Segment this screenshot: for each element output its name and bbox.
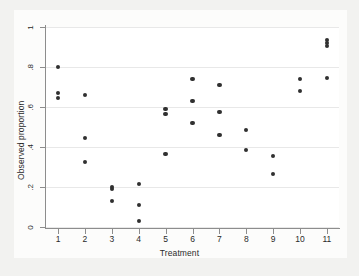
data-point: [137, 182, 141, 186]
y-axis-tick-label: .2: [26, 180, 35, 196]
data-point: [190, 77, 194, 81]
data-point: [190, 121, 194, 125]
data-point: [217, 133, 221, 137]
x-axis-tick-label: 6: [183, 234, 203, 244]
data-point: [244, 148, 248, 152]
data-point: [83, 136, 87, 140]
data-point: [298, 77, 302, 81]
y-axis-tick-label: 0: [26, 220, 35, 236]
y-axis-title: Observed proportion: [16, 101, 26, 180]
x-axis-title: Treatment: [0, 248, 359, 258]
data-point: [163, 152, 167, 156]
gridline: [46, 27, 339, 28]
x-axis-tick-label: 5: [156, 234, 176, 244]
gridline: [46, 187, 339, 188]
data-point: [83, 160, 87, 164]
data-point: [110, 199, 114, 203]
x-axis-tick-label: 4: [129, 234, 149, 244]
data-point: [217, 83, 221, 87]
y-axis-line: [45, 25, 46, 229]
y-axis-tick: [40, 107, 45, 108]
x-axis-tick-label: 9: [263, 234, 283, 244]
data-point: [298, 89, 302, 93]
data-point: [110, 187, 114, 191]
data-point: [163, 112, 167, 116]
scatter-plot-figure: 0.2.4.6.81 1234567891011 Observed propor…: [0, 0, 359, 276]
data-point: [56, 96, 60, 100]
y-axis-tick-label: 1: [26, 20, 35, 36]
y-axis-tick-label: .6: [26, 100, 35, 116]
data-point: [56, 65, 60, 69]
y-axis-tick: [40, 67, 45, 68]
x-axis-tick-label: 2: [75, 234, 95, 244]
data-point: [271, 172, 275, 176]
data-point: [325, 76, 329, 80]
y-axis-tick-label: .8: [26, 60, 35, 76]
y-axis-tick: [40, 147, 45, 148]
x-axis-tick-label: 3: [102, 234, 122, 244]
data-point: [217, 110, 221, 114]
data-point: [163, 107, 167, 111]
x-axis-tick-label: 8: [236, 234, 256, 244]
y-axis-tick: [40, 187, 45, 188]
data-point: [83, 93, 87, 97]
data-point: [271, 154, 275, 158]
x-axis-tick-label: 11: [317, 234, 337, 244]
x-axis-tick-label: 7: [209, 234, 229, 244]
y-axis-tick-label: .4: [26, 140, 35, 156]
y-axis-tick: [40, 27, 45, 28]
data-point: [244, 128, 248, 132]
data-point: [56, 91, 60, 95]
x-axis-tick-label: 10: [290, 234, 310, 244]
x-axis-tick-label: 1: [48, 234, 68, 244]
gridline: [46, 107, 339, 108]
gridline: [46, 67, 339, 68]
y-axis-tick: [40, 227, 45, 228]
data-point: [190, 99, 194, 103]
data-point: [137, 203, 141, 207]
gridline: [46, 147, 339, 148]
data-point: [137, 219, 141, 223]
plot-area: [46, 27, 339, 227]
data-point: [325, 44, 329, 48]
